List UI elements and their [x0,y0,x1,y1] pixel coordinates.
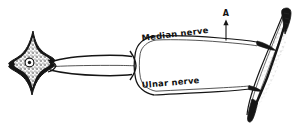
axon-trunk [50,51,136,80]
spindle-muscle [240,5,296,130]
nerve-muscle-figure: Median nerve Ulnar nerve A [0,0,296,137]
ulnar-nerve-label: Ulnar nerve [141,75,200,90]
marker-a-leader-line [223,20,228,41]
figure-canvas: Median nerve Ulnar nerve A [0,0,296,137]
stellate-neuron-cell-body [9,31,56,95]
marker-a-label: A [223,9,230,18]
neuron-nucleus [25,58,34,67]
